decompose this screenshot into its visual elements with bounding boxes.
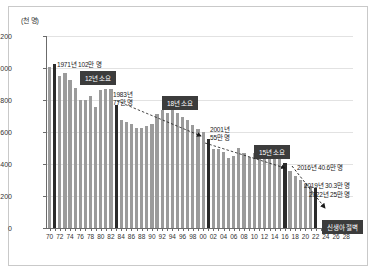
x-axis-tick-label: 80 <box>97 233 104 240</box>
x-axis-tick-mark <box>218 228 219 231</box>
bar <box>299 180 302 228</box>
x-axis-tick-mark <box>121 228 122 231</box>
y-axis-unit-label: (천 명) <box>21 15 39 25</box>
annotation-2001-line2: 55만 명 <box>210 134 230 143</box>
x-axis-tick-mark <box>142 228 143 231</box>
x-axis-tick-mark <box>316 228 317 231</box>
bar <box>253 153 256 228</box>
bar <box>222 152 225 228</box>
y-axis-tick-mark <box>43 196 46 197</box>
x-axis-tick-mark <box>188 228 189 231</box>
x-axis-tick-label: 98 <box>189 233 196 240</box>
y-axis-tick-mark <box>43 68 46 69</box>
x-axis-tick-label: 28 <box>343 233 350 240</box>
y-axis-tick-mark <box>43 164 46 165</box>
x-axis-tick-mark <box>264 228 265 231</box>
bar <box>294 176 297 228</box>
bar <box>84 100 87 228</box>
x-axis-tick-mark <box>162 228 163 231</box>
bar <box>48 67 51 228</box>
bar <box>288 171 291 228</box>
x-axis-tick-label: 82 <box>107 233 114 240</box>
x-axis-tick-mark <box>167 228 168 231</box>
y-axis-tick-label: 200 <box>0 193 12 200</box>
x-axis-tick-label: 22 <box>312 233 319 240</box>
badge-18-years: 18년 소요 <box>162 96 198 110</box>
bar <box>202 132 205 228</box>
bar <box>58 76 61 228</box>
bar <box>248 157 251 228</box>
bar <box>263 150 266 228</box>
x-axis-tick-label: 92 <box>159 233 166 240</box>
y-axis-tick-label: 1,000 <box>0 65 12 72</box>
x-axis-tick-mark <box>193 228 194 231</box>
x-axis-tick-mark <box>229 228 230 231</box>
bar <box>242 153 245 228</box>
x-axis-tick-label: 96 <box>179 233 186 240</box>
bar <box>217 149 220 228</box>
x-axis-tick-label: 94 <box>169 233 176 240</box>
x-axis-tick-mark <box>208 228 209 231</box>
x-axis-tick-label: 70 <box>46 233 53 240</box>
x-axis-tick-mark <box>111 228 112 231</box>
x-axis-tick-label: 26 <box>332 233 339 240</box>
y-axis-tick-mark <box>43 228 46 229</box>
x-axis-tick-mark <box>131 228 132 231</box>
bar <box>304 184 307 228</box>
bar <box>212 149 215 228</box>
x-axis-tick-mark <box>157 228 158 231</box>
x-axis-tick-label: 86 <box>128 233 135 240</box>
x-axis-tick-mark <box>275 228 276 231</box>
x-axis-tick-mark <box>183 228 184 231</box>
x-axis-tick-mark <box>50 228 51 231</box>
x-axis-tick-mark <box>234 228 235 231</box>
annotation-2019: 2019년 30.3만 명 <box>304 182 350 191</box>
badge-15-years: 15년 소요 <box>254 145 290 159</box>
x-axis-tick-mark <box>106 228 107 231</box>
bar <box>186 120 189 228</box>
x-axis-tick-mark <box>280 228 281 231</box>
bar <box>99 90 102 228</box>
y-axis-tick-label: 1,200 <box>0 33 12 40</box>
x-axis-tick-label: 14 <box>271 233 278 240</box>
bar <box>232 156 235 228</box>
x-axis-tick-mark <box>80 228 81 231</box>
x-axis-tick-mark <box>101 228 102 231</box>
x-axis-line <box>46 228 353 229</box>
y-axis-tick-mark <box>43 36 46 37</box>
x-axis-tick-mark <box>70 228 71 231</box>
bar <box>68 80 71 228</box>
bar <box>283 163 286 228</box>
x-axis-tick-label: 88 <box>138 233 145 240</box>
x-axis-tick-mark <box>198 228 199 231</box>
x-axis-tick-mark <box>305 228 306 231</box>
x-axis-tick-mark <box>259 228 260 231</box>
x-axis-tick-mark <box>178 228 179 231</box>
x-axis-tick-label: 00 <box>199 233 206 240</box>
bar <box>196 129 199 228</box>
x-axis-tick-mark <box>224 228 225 231</box>
x-axis-tick-mark <box>270 228 271 231</box>
bar <box>227 158 230 228</box>
bar <box>181 117 184 228</box>
bar <box>130 124 133 228</box>
x-axis-tick-mark <box>311 228 312 231</box>
x-axis-tick-mark <box>91 228 92 231</box>
x-axis-tick-mark <box>55 228 56 231</box>
bar <box>171 110 174 228</box>
x-axis-tick-mark <box>85 228 86 231</box>
bar <box>89 96 92 228</box>
x-axis-tick-label: 90 <box>148 233 155 240</box>
x-axis-tick-label: 84 <box>118 233 125 240</box>
bar <box>63 73 66 228</box>
annotation-1971: 1971년 102만 명 <box>57 61 102 70</box>
x-axis-tick-label: 12 <box>261 233 268 240</box>
x-axis-tick-label: 08 <box>240 233 247 240</box>
x-axis-tick-label: 74 <box>66 233 73 240</box>
bar <box>104 89 107 228</box>
y-axis-tick-mark <box>43 100 46 101</box>
x-axis-tick-mark <box>239 228 240 231</box>
x-axis-tick-label: 18 <box>292 233 299 240</box>
x-axis-tick-mark <box>137 228 138 231</box>
x-axis-tick-label: 72 <box>56 233 63 240</box>
